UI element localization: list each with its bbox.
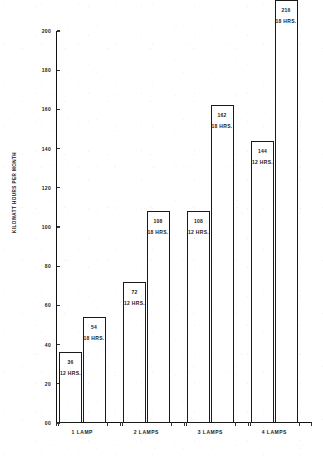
bar-hours-label: 18 HRS.	[84, 335, 105, 341]
x-axis-tick-mark	[299, 422, 300, 426]
bar-hours-label: 12 HRS.	[188, 229, 209, 235]
y-axis-tick: 60	[22, 301, 60, 309]
bar-hours-label: 18 HRS.	[276, 18, 297, 24]
x-axis-tick-mark	[311, 422, 312, 426]
y-axis-tick-label: 100	[42, 223, 51, 231]
x-axis-tick-mark	[171, 422, 172, 426]
y-axis-tick-mark	[57, 226, 60, 227]
y-axis-title: KILOWATT HOURS PER MONTH	[12, 133, 17, 253]
y-axis-tick-mark	[57, 305, 60, 306]
y-axis-tick-label: 120	[42, 184, 51, 192]
bar-value-label: 216	[276, 7, 297, 13]
bar-hours-label: 18 HRS.	[148, 229, 169, 235]
y-axis-tick-label: 160	[42, 105, 51, 113]
y-axis-tick: 140	[22, 145, 60, 153]
y-axis-tick: 40	[22, 341, 60, 349]
y-axis-tick-mark	[57, 70, 60, 71]
y-axis-tick-mark	[57, 148, 60, 149]
x-axis-tick-mark	[186, 422, 187, 426]
bar-value-label: 108	[148, 218, 169, 224]
bar-hours-label: 12 HRS.	[252, 159, 273, 165]
x-axis-group-label: 2 LAMPS	[111, 429, 181, 435]
y-axis-tick-label: 200	[42, 27, 51, 35]
y-axis-tick-label: 80	[45, 262, 51, 270]
y-axis-tick-mark	[57, 344, 60, 345]
y-axis-tick-mark	[57, 187, 60, 188]
y-axis-tick-mark	[57, 30, 60, 31]
bar: 10818 HRS.	[147, 211, 170, 423]
bar-value-label: 162	[212, 112, 233, 118]
y-axis-tick-mark	[57, 266, 60, 267]
y-axis-tick-label: 00	[45, 419, 51, 427]
plot-area: 0020406080100120140160180200 3612 HRS.54…	[56, 31, 312, 423]
y-axis-tick: 00	[22, 419, 60, 427]
y-axis-tick: 180	[22, 66, 60, 74]
x-axis-tick-mark	[235, 422, 236, 426]
y-axis-tick-label: 180	[42, 66, 51, 74]
x-axis-tick-mark	[58, 422, 59, 426]
y-axis-tick: 200	[22, 27, 60, 35]
x-axis-tick-mark	[122, 422, 123, 426]
x-axis-group-label: 1 LAMP	[47, 429, 117, 435]
bar-hours-label: 12 HRS.	[60, 370, 81, 376]
x-axis-tick-mark	[107, 422, 108, 426]
bar: 7212 HRS.	[123, 282, 146, 423]
y-axis-tick-label: 20	[45, 380, 51, 388]
y-axis-tick: 160	[22, 105, 60, 113]
y-axis-tick: 20	[22, 380, 60, 388]
bar-value-label: 36	[60, 359, 81, 365]
bar-chart: KILOWATT HOURS PER MONTH 002040608010012…	[0, 0, 323, 465]
bar: 3612 HRS.	[59, 352, 82, 423]
y-axis-tick: 100	[22, 223, 60, 231]
y-axis-tick-label: 40	[45, 341, 51, 349]
y-axis-tick-mark	[57, 109, 60, 110]
bar-hours-label: 18 HRS.	[212, 123, 233, 129]
y-axis-tick: 120	[22, 184, 60, 192]
y-axis-tick-label: 140	[42, 145, 51, 153]
bar-value-label: 54	[84, 324, 105, 330]
bar: 5418 HRS.	[83, 317, 106, 423]
x-axis-group-label: 3 LAMPS	[175, 429, 245, 435]
bar-value-label: 108	[188, 218, 209, 224]
x-axis-group-label: 4 LAMPS	[239, 429, 309, 435]
bar-hours-label: 12 HRS.	[124, 300, 145, 306]
y-axis-tick: 80	[22, 262, 60, 270]
bar-value-label: 144	[252, 148, 273, 154]
bar: 21618 HRS.	[275, 0, 298, 423]
bar-value-label: 72	[124, 289, 145, 295]
bar: 16218 HRS.	[211, 105, 234, 423]
bar: 14412 HRS.	[251, 141, 274, 423]
x-axis-tick-mark	[250, 422, 251, 426]
bar: 10812 HRS.	[187, 211, 210, 423]
y-axis-tick-label: 60	[45, 301, 51, 309]
